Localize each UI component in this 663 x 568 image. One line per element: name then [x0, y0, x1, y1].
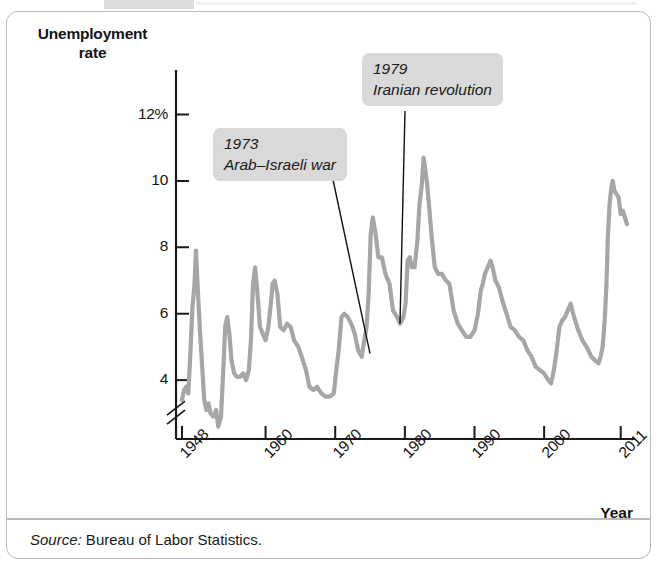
figure-panel: Unemployment rate 12%10864 1948196019701…	[6, 11, 651, 559]
callout-1979-event: Iranian revolution	[373, 79, 492, 100]
y-axis-title-line2: rate	[15, 43, 170, 62]
y-tick-label-4: 4	[108, 370, 168, 388]
y-tick-label-8: 8	[108, 237, 168, 255]
unemployment-rate-line	[182, 158, 627, 427]
plot-area	[7, 12, 651, 559]
callout-1973-arab-israeli-war: 1973 Arab–Israeli war	[213, 128, 347, 181]
callout-1973-year: 1973	[224, 133, 336, 154]
y-tick-label-10: 10	[108, 171, 168, 189]
callout-1979-iranian-revolution: 1979 Iranian revolution	[362, 53, 503, 106]
source-note: Source: Bureau of Labor Statistics.	[30, 531, 262, 548]
callout-1973-event: Arab–Israeli war	[224, 154, 336, 175]
y-axis-title-line1: Unemployment	[15, 24, 170, 43]
axes-group	[176, 70, 635, 439]
title-smudge-right	[196, 2, 636, 5]
data-line-unemployment-rate	[182, 158, 627, 427]
title-smudge-left	[104, 0, 194, 9]
source-lead: Source:	[30, 531, 82, 548]
y-axis-title: Unemployment rate	[15, 24, 170, 62]
source-text: Bureau of Labor Statistics.	[82, 531, 262, 548]
callout-1979-year: 1979	[373, 58, 492, 79]
y-tick-label-6: 6	[108, 304, 168, 322]
source-divider	[7, 518, 651, 520]
chart-svg	[7, 12, 651, 559]
y-tick-label-12%: 12%	[108, 105, 168, 123]
